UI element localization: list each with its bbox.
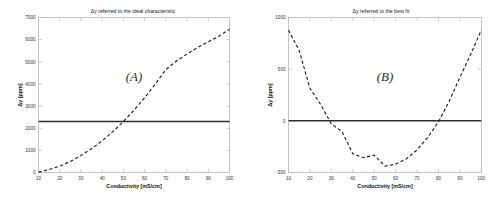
panel-letter-b: (B) — [377, 69, 394, 84]
y-tick-a-3: 3000 — [25, 104, 36, 109]
x-tick-b-0: 10 — [286, 176, 292, 181]
x-tick-a-6: 70 — [163, 176, 169, 181]
y-tick-b-1: 0 — [283, 119, 286, 124]
chart-panel-b: Δy referred to the best fit — [248, 0, 496, 199]
x-tick-a-3: 40 — [100, 176, 106, 181]
chart-svg-b: Δy referred to the best fit — [248, 0, 496, 199]
x-tick-b-1: 20 — [307, 176, 313, 181]
x-tickmarks-a — [39, 18, 230, 173]
y-tick-a-6: 6000 — [25, 37, 36, 42]
x-tick-a-7: 80 — [185, 176, 191, 181]
y-axis-label-b: Δy [ppm] — [267, 83, 273, 107]
x-tick-a-2: 30 — [78, 176, 84, 181]
chart-panel-a: Δy referred to the ideal characteristic — [0, 0, 248, 199]
x-tick-a-1: 20 — [57, 176, 63, 181]
chart-title-a: Δy referred to the ideal characteristic — [91, 8, 176, 14]
x-tick-a-5: 60 — [142, 176, 148, 181]
figure-container: Δy referred to the ideal characteristic — [0, 0, 496, 199]
x-tick-b-2: 30 — [329, 176, 335, 181]
y-tick-a-5: 5000 — [25, 60, 36, 65]
y-tick-a-1: 1000 — [25, 148, 36, 153]
y-tick-b-3: 1000 — [275, 15, 286, 20]
x-tick-b-7: 80 — [436, 176, 442, 181]
x-tick-b-3: 40 — [350, 176, 356, 181]
y-ticklabels-b: -500 0 500 1000 — [275, 15, 286, 175]
y-tick-a-7: 7000 — [25, 15, 36, 20]
x-tick-b-9: 100 — [477, 176, 485, 181]
y-tick-b-2: 500 — [278, 67, 286, 72]
x-tick-b-8: 90 — [457, 176, 463, 181]
x-tick-a-4: 50 — [121, 176, 127, 181]
x-ticklabels-b: 10 20 30 40 50 60 70 80 90 100 — [286, 176, 486, 181]
x-tick-b-5: 60 — [393, 176, 399, 181]
data-curve-b — [289, 30, 482, 166]
plot-frame-a — [39, 18, 230, 173]
x-tick-a-8: 90 — [206, 176, 212, 181]
y-tick-a-4: 4000 — [25, 82, 36, 87]
x-tick-b-6: 70 — [414, 176, 420, 181]
x-axis-label-b: Conductivity [mS/cm] — [357, 183, 413, 189]
chart-title-b: Δy referred to the best fit — [353, 8, 410, 14]
y-axis-label-a: Δy [ppm] — [17, 83, 23, 107]
data-curve-a — [39, 29, 230, 172]
y-tick-b-0: -500 — [276, 170, 286, 175]
x-tick-b-4: 50 — [372, 176, 378, 181]
y-tick-a-0: 0 — [33, 170, 36, 175]
x-tick-a-0: 10 — [36, 176, 42, 181]
y-ticklabels-a: 0 1000 2000 3000 4000 5000 6000 7000 — [25, 15, 36, 175]
y-tickmarks-a — [39, 18, 230, 173]
chart-svg-a: Δy referred to the ideal characteristic — [0, 0, 248, 199]
y-tick-a-2: 2000 — [25, 126, 36, 131]
x-axis-label-a: Conductivity [mS/cm] — [106, 183, 162, 189]
x-ticklabels-a: 10 20 30 40 50 60 70 80 90 100 — [36, 176, 234, 181]
panel-letter-a: (A) — [126, 69, 143, 84]
x-tick-a-9: 100 — [226, 176, 234, 181]
